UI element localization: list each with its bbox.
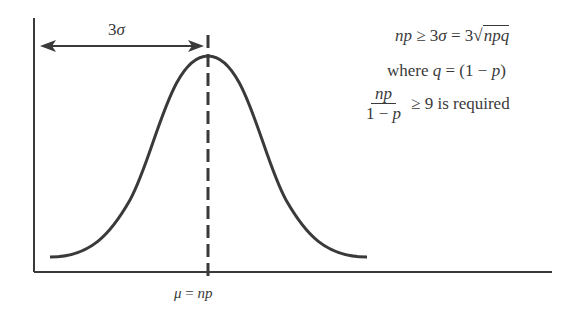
eq2-mid: = (1 − xyxy=(441,61,491,80)
three-sigma-arrow xyxy=(40,40,204,52)
eq2-close: ) xyxy=(500,61,506,80)
mu-symbol: μ xyxy=(174,285,182,301)
fraction: np 1 − p xyxy=(362,84,405,123)
sigma-coef: 3 xyxy=(108,20,117,39)
mean-label: μ = np xyxy=(174,285,213,302)
denominator-prefix: 1 − xyxy=(366,104,393,123)
eq2-var: q xyxy=(433,61,442,80)
three-sigma-label: 3σ xyxy=(108,20,125,40)
fraction-numerator: np xyxy=(371,84,396,104)
eq1-radicand: npq xyxy=(483,25,510,45)
fraction-denominator: 1 − p xyxy=(362,104,405,123)
equation-np-ge-3sigma: np ≥ 3σ = 3√npq xyxy=(395,26,509,46)
eq1-sigma: σ xyxy=(438,26,446,45)
eq1-op1: ≥ 3 xyxy=(412,26,438,45)
eq1-lhs: np xyxy=(395,26,412,45)
mean-rhs: np xyxy=(198,285,213,301)
sigma-symbol: σ xyxy=(117,20,125,39)
eq2-prefix: where xyxy=(387,61,433,80)
denominator-var: p xyxy=(393,104,402,123)
eq1-op2: = 3√ xyxy=(447,26,483,45)
ratio-suffix: ≥ 9 is required xyxy=(411,94,510,114)
normal-curve-diagram xyxy=(0,0,577,312)
equation-ratio-requirement: np 1 − p ≥ 9 is required xyxy=(362,84,510,123)
eq2-p: p xyxy=(492,61,501,80)
mean-eq: = xyxy=(182,285,198,301)
equation-q-definition: where q = (1 − p) xyxy=(387,61,506,81)
